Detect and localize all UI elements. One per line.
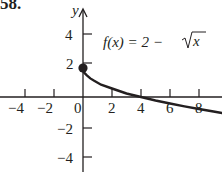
x-tick-2: 2 bbox=[108, 100, 116, 116]
y-axis-label: y bbox=[70, 2, 79, 18]
y-tick-2: 2 bbox=[66, 56, 74, 72]
start-point bbox=[78, 63, 87, 72]
function-label: f(x) = 2 − bbox=[103, 34, 163, 51]
function-graph: y 4 2 −2 −4 −4 −2 0 2 4 6 8 f(x) = 2 − x bbox=[0, 0, 222, 180]
y-ticks bbox=[83, 34, 92, 157]
y-tick-neg2: −2 bbox=[57, 121, 73, 137]
x-tick-neg2: −2 bbox=[37, 100, 53, 116]
y-tick-neg4: −4 bbox=[57, 150, 73, 166]
x-ticks bbox=[25, 89, 199, 97]
y-tick-4: 4 bbox=[65, 27, 73, 43]
function-label-x: x bbox=[192, 33, 200, 49]
x-tick-0: 0 bbox=[74, 100, 82, 116]
x-tick-neg4: −4 bbox=[8, 100, 24, 116]
x-tick-4: 4 bbox=[137, 100, 145, 116]
